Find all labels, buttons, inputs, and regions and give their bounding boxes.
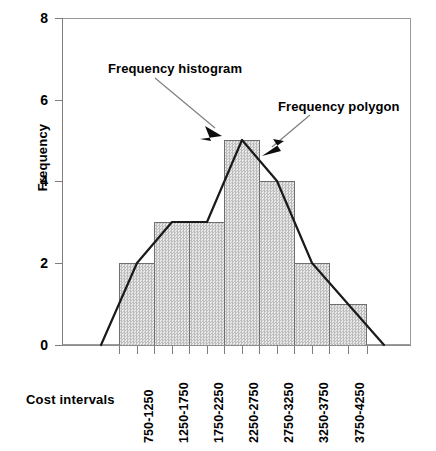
- x-tick-label-1750-2250: 1750-2250: [213, 382, 226, 443]
- x-tick-center-3750-4250: [348, 346, 349, 354]
- x-tick-center-750-1250: [137, 346, 138, 354]
- annotation-frequency-histogram: Frequency histogram: [108, 62, 242, 75]
- x-tick-label-2750-3250: 2750-3250: [283, 382, 296, 443]
- y-tick-0: [55, 345, 62, 346]
- y-axis-line: [62, 18, 63, 346]
- x-tick-center-1750-2250: [207, 346, 208, 354]
- x-tick-center-3250-3750: [312, 346, 313, 354]
- y-tick-label-8: 8: [20, 11, 48, 25]
- bar-750-1250: [119, 263, 155, 346]
- y-tick-8: [55, 18, 62, 19]
- bar-1250-1750: [154, 222, 190, 346]
- y-axis-title: Frequency: [35, 98, 50, 218]
- x-axis-line: [62, 345, 411, 346]
- x-tick-center-2750-3250: [277, 346, 278, 354]
- x-tick-boundary-3: [224, 346, 225, 354]
- y-tick-2: [55, 263, 62, 264]
- x-tick-boundary-6: [329, 346, 330, 354]
- bar-1750-2250: [189, 222, 225, 346]
- x-tick-label-3250-3750: 3250-3750: [318, 382, 331, 443]
- x-tick-boundary-4: [259, 346, 260, 354]
- y-tick-label-2: 2: [20, 256, 48, 270]
- x-tick-label-1250-1750: 1250-1750: [178, 382, 191, 443]
- x-tick-boundary-7: [367, 346, 368, 354]
- x-tick-boundary-2: [189, 346, 190, 354]
- annotation-frequency-polygon: Frequency polygon: [278, 100, 400, 113]
- bar-3750-4250: [329, 304, 367, 346]
- x-tick-boundary-5: [294, 346, 295, 354]
- x-tick-boundary-1: [154, 346, 155, 354]
- x-tick-label-750-1250: 750-1250: [143, 389, 156, 443]
- x-tick-center-1250-1750: [172, 346, 173, 354]
- x-tick-center-2250-2750: [242, 346, 243, 354]
- x-tick-label-2250-2750: 2250-2750: [248, 382, 261, 443]
- x-tick-boundary-0: [119, 346, 120, 354]
- y-tick-6: [55, 100, 62, 101]
- frequency-histogram-chart: 8 6 4 2 0 Frequency 750-1250 1250-1750 1…: [0, 0, 436, 451]
- x-axis-title: Cost intervals: [26, 392, 115, 407]
- bar-3250-3750: [294, 263, 330, 346]
- bar-2750-3250: [259, 181, 295, 346]
- y-tick-4: [55, 181, 62, 182]
- x-tick-label-3750-4250: 3750-4250: [354, 382, 367, 443]
- bar-2250-2750: [224, 140, 260, 346]
- y-tick-label-0: 0: [20, 338, 48, 352]
